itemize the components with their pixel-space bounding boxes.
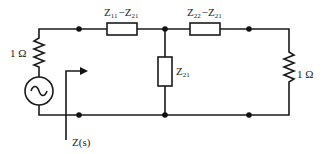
source-resistor-label: 1 Ω [10,47,26,59]
series-impedance-right-label: Z22−Z21 [187,6,222,20]
series-impedance-right-box [190,23,220,35]
junction-dot [76,112,82,118]
shunt-impedance-label: Z21 [176,65,190,79]
junction-dot [162,26,168,32]
junction-dot [76,26,82,32]
circuit-diagram: 1 Ω 1 Ω Z11−Z21 Z22−Z21 Z21 Z(s) [0,0,330,154]
series-impedance-left-box [107,23,137,35]
junction-dot [246,26,252,32]
impedance-arrow [66,71,80,140]
circuit-schematic: 1 Ω 1 Ω Z11−Z21 Z22−Z21 Z21 Z(s) [0,0,330,154]
shunt-impedance-box [158,57,172,86]
junction-dot [246,112,252,118]
load-resistor [284,42,294,100]
junction-dot [162,112,168,118]
sine-wave-icon [31,87,47,96]
input-impedance-label: Z(s) [72,136,91,149]
load-resistor-label: 1 Ω [297,68,313,80]
arrowhead-icon [80,67,88,75]
source-resistor [34,36,44,77]
top-wire [39,29,107,36]
top-wire-right [220,29,289,42]
series-impedance-left-label: Z11−Z21 [104,6,139,20]
